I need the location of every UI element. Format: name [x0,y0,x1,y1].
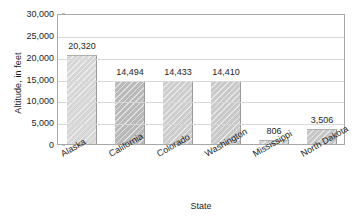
bar-value-label: 14,494 [116,68,144,77]
y-axis-tick-label: 20,000 [8,53,54,62]
x-axis-title: State [57,201,345,211]
gridline [58,124,344,125]
bar-chart: Altitude, in feet 05,00010,00015,00020,0… [0,0,356,221]
y-axis-tick-labels: 05,00010,00015,00020,00025,00030,000 [8,14,54,145]
gridline [58,81,344,82]
bar-value-label: 20,320 [68,42,96,51]
bar-value-label: 14,410 [212,68,240,77]
gridline [58,37,344,38]
gridline [58,59,344,60]
bar[interactable] [67,55,97,144]
bar-value-label: 14,433 [164,68,192,77]
y-axis-tick-label: 25,000 [8,31,54,40]
x-axis-tick-labels: AlaskaCaliforniaColoradoWashingtonMissis… [57,146,345,198]
y-axis-tick-label: 5,000 [8,119,54,128]
y-axis-tick-label: 0 [8,141,54,150]
gridline [58,102,344,103]
plot-area: 20,32014,49414,43314,4108063,506 [57,14,345,145]
y-axis-tick-label: 10,000 [8,97,54,106]
y-axis-tick-label: 30,000 [8,10,54,19]
y-axis-tick-label: 15,000 [8,75,54,84]
